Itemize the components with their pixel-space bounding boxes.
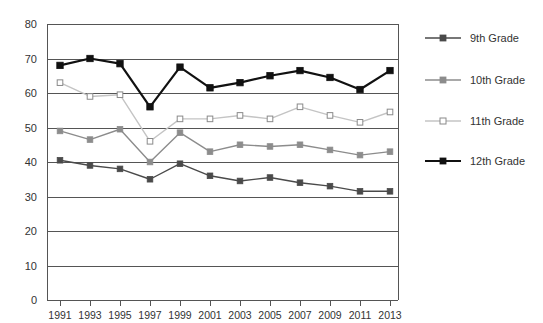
data-point-marker — [357, 120, 363, 126]
data-point-marker — [147, 176, 153, 182]
data-point-marker — [297, 180, 303, 186]
y-axis-tick-label: 30 — [25, 191, 37, 203]
data-point-marker — [117, 126, 123, 132]
series-line — [60, 59, 390, 107]
data-point-marker — [327, 74, 333, 80]
y-axis-tick-label: 50 — [25, 122, 37, 134]
data-point-marker — [147, 139, 153, 145]
data-point-marker — [237, 142, 243, 148]
y-axis-tick-label: 80 — [25, 18, 37, 30]
data-point-marker — [57, 62, 63, 68]
x-axis-tick-label: 2011 — [349, 309, 372, 321]
data-point-marker — [207, 116, 213, 122]
chart-legend: 9th Grade10th Grade11th Grade12th Grade — [425, 32, 525, 167]
x-axis-tick-label: 2001 — [198, 309, 222, 321]
data-point-marker — [267, 144, 273, 150]
data-point-marker — [267, 116, 273, 122]
x-axis-tick-label: 1997 — [138, 309, 162, 321]
y-axis-tick-label: 0 — [31, 294, 37, 306]
data-point-marker — [357, 189, 363, 195]
chart-container: 01020304050607080 1991199319951997199920… — [0, 0, 543, 323]
data-point-marker — [327, 113, 333, 119]
data-point-marker — [57, 157, 63, 163]
data-point-marker — [87, 94, 93, 100]
line-chart: 01020304050607080 1991199319951997199920… — [0, 0, 543, 323]
data-point-marker — [117, 60, 123, 66]
legend-marker-swatch — [440, 158, 446, 164]
legend-marker-swatch — [440, 118, 446, 124]
series-line — [60, 160, 390, 191]
data-point-marker — [87, 163, 93, 169]
data-point-marker — [297, 104, 303, 110]
data-point-marker — [207, 149, 213, 155]
x-axis-tick-label: 1991 — [48, 309, 72, 321]
data-point-marker — [177, 116, 183, 122]
data-point-marker — [237, 79, 243, 85]
y-axis-tick-label: 40 — [25, 156, 37, 168]
data-point-marker — [177, 161, 183, 167]
y-axis-tick-label: 70 — [25, 53, 37, 65]
x-axis-tick-label: 1993 — [78, 309, 102, 321]
data-point-marker — [207, 173, 213, 179]
y-axis-tick-label: 20 — [25, 225, 37, 237]
data-point-marker — [327, 147, 333, 153]
data-point-marker — [147, 159, 153, 165]
data-point-marker — [117, 166, 123, 172]
x-axis-tick-label: 2007 — [288, 309, 312, 321]
data-point-marker — [267, 73, 273, 79]
series-10th-grade — [57, 126, 393, 164]
x-axis-tick-label: 2005 — [258, 309, 282, 321]
legend-marker-swatch — [440, 77, 446, 83]
x-axis-tick-labels: 1991199319951997199920012003200520072009… — [48, 309, 402, 321]
data-point-marker — [387, 149, 393, 155]
data-point-marker — [177, 130, 183, 136]
data-point-marker — [357, 86, 363, 92]
data-point-marker — [237, 178, 243, 184]
legend-item-label: 10th Grade — [470, 74, 525, 86]
legend-item-label: 11th Grade — [470, 115, 524, 127]
data-point-marker — [87, 55, 93, 61]
data-point-marker — [147, 104, 153, 110]
data-point-marker — [57, 128, 63, 134]
series-line — [60, 129, 390, 162]
data-series-group — [57, 55, 393, 194]
data-point-marker — [327, 183, 333, 189]
legend-item-label: 9th Grade — [470, 32, 519, 44]
data-point-marker — [387, 109, 393, 115]
data-point-marker — [297, 142, 303, 148]
x-axis-tick-label: 2013 — [378, 309, 402, 321]
x-axis-tick-label: 1995 — [108, 309, 132, 321]
data-point-marker — [387, 67, 393, 73]
data-point-marker — [357, 152, 363, 158]
data-point-marker — [207, 85, 213, 91]
y-axis-tick-label: 10 — [25, 260, 37, 272]
data-point-marker — [177, 64, 183, 70]
data-point-marker — [87, 137, 93, 143]
y-axis-tick-labels: 01020304050607080 — [25, 18, 37, 306]
data-point-marker — [297, 67, 303, 73]
legend-marker-swatch — [440, 35, 446, 41]
series-11th-grade — [57, 80, 393, 144]
legend-item-label: 12th Grade — [470, 155, 525, 167]
data-point-marker — [237, 113, 243, 119]
data-point-marker — [117, 92, 123, 98]
x-axis-tick-label: 2003 — [228, 309, 252, 321]
x-axis-tick-label: 1999 — [168, 309, 192, 321]
x-axis-tick-label: 2009 — [318, 309, 342, 321]
gridlines-group — [47, 24, 399, 301]
y-axis-tick-label: 60 — [25, 87, 37, 99]
data-point-marker — [57, 80, 63, 86]
series-12th-grade — [57, 55, 393, 110]
data-point-marker — [387, 189, 393, 195]
data-point-marker — [267, 175, 273, 181]
